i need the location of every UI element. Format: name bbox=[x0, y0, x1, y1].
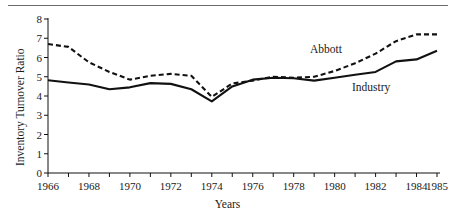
x-tick-label: 1978 bbox=[283, 181, 305, 192]
y-axis-title: Inventory Turnover Ratio bbox=[14, 48, 26, 166]
x-tick-label: 1985 bbox=[426, 181, 448, 192]
x-tick-label: 1974 bbox=[201, 181, 223, 192]
x-tick-label: 1972 bbox=[160, 181, 182, 192]
x-tick-label: 1980 bbox=[324, 181, 346, 192]
x-tick-label: 1976 bbox=[242, 181, 264, 192]
x-axis-title: Years bbox=[0, 198, 455, 210]
x-tick-label: 1970 bbox=[119, 181, 141, 192]
chart-figure: 0123456781966196819701972197419761978198… bbox=[0, 0, 455, 217]
x-tick-label: 1982 bbox=[365, 181, 387, 192]
x-tick-label: 1968 bbox=[78, 181, 100, 192]
series-label-industry: Industry bbox=[352, 81, 390, 93]
x-tick-label: 1966 bbox=[37, 181, 59, 192]
y-tick-label: 8 bbox=[20, 14, 42, 25]
chart-plot-area bbox=[0, 0, 455, 217]
series-label-abbott: Abbott bbox=[310, 43, 342, 55]
x-tick-label: 1984 bbox=[406, 181, 428, 192]
y-tick-label: 7 bbox=[20, 33, 42, 44]
y-tick-label: 0 bbox=[20, 168, 42, 179]
series-line-industry bbox=[48, 51, 437, 102]
axes-group bbox=[44, 18, 440, 177]
